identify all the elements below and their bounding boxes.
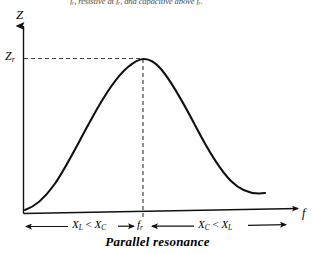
figure-caption: Parallel resonance xyxy=(0,234,315,250)
figure-container: fᵣ, resistive at fᵣ, and capacitive abov… xyxy=(0,0,315,254)
x-axis-label: f xyxy=(302,207,305,219)
resonance-curve-figure xyxy=(0,0,315,254)
zr-marker-label: Zr xyxy=(5,50,15,64)
right-region-arrow-right xyxy=(248,225,286,226)
right-region-label: XC < XL xyxy=(198,219,232,231)
left-region-label: XL < XC xyxy=(72,219,106,231)
impedance-curve xyxy=(25,59,265,210)
y-axis-label: Z xyxy=(16,8,23,21)
x-axis-line xyxy=(24,209,299,214)
fr-marker-label: fr xyxy=(137,219,143,231)
